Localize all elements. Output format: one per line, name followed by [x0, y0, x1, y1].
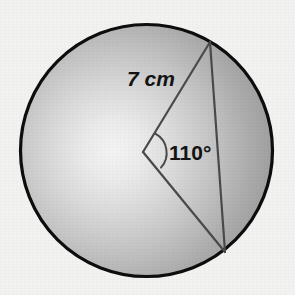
central-angle-label: 110° — [169, 141, 211, 164]
geometry-figure: 7 cm 110° — [0, 0, 295, 295]
circle-diagram-canvas: 7 cm 110° — [0, 0, 295, 295]
radius-length-label: 7 cm — [127, 67, 175, 90]
